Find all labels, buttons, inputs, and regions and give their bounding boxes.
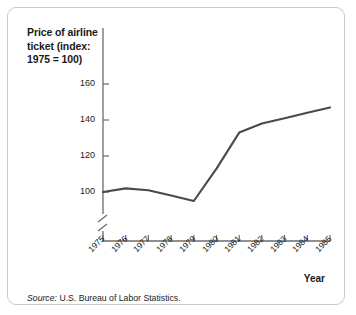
x-tick-label: 1980 [200, 234, 220, 254]
x-tick-label: 1975 [86, 234, 106, 254]
x-tick-label: 1981 [222, 234, 242, 254]
x-tick-label: 1977 [131, 234, 151, 254]
tick-label-layer: 1001201401601975197619771978197919801981… [0, 0, 356, 315]
x-tick-label: 1983 [268, 234, 288, 254]
y-tick-label: 160 [65, 78, 95, 88]
y-tick-label: 140 [65, 114, 95, 124]
x-tick-label: 1979 [177, 234, 197, 254]
x-tick-label: 1985 [313, 234, 333, 254]
x-tick-label: 1984 [290, 234, 310, 254]
y-tick-label: 100 [65, 186, 95, 196]
y-tick-label: 120 [65, 150, 95, 160]
x-tick-label: 1982 [245, 234, 265, 254]
x-tick-label: 1976 [109, 234, 129, 254]
x-tick-label: 1978 [154, 234, 174, 254]
